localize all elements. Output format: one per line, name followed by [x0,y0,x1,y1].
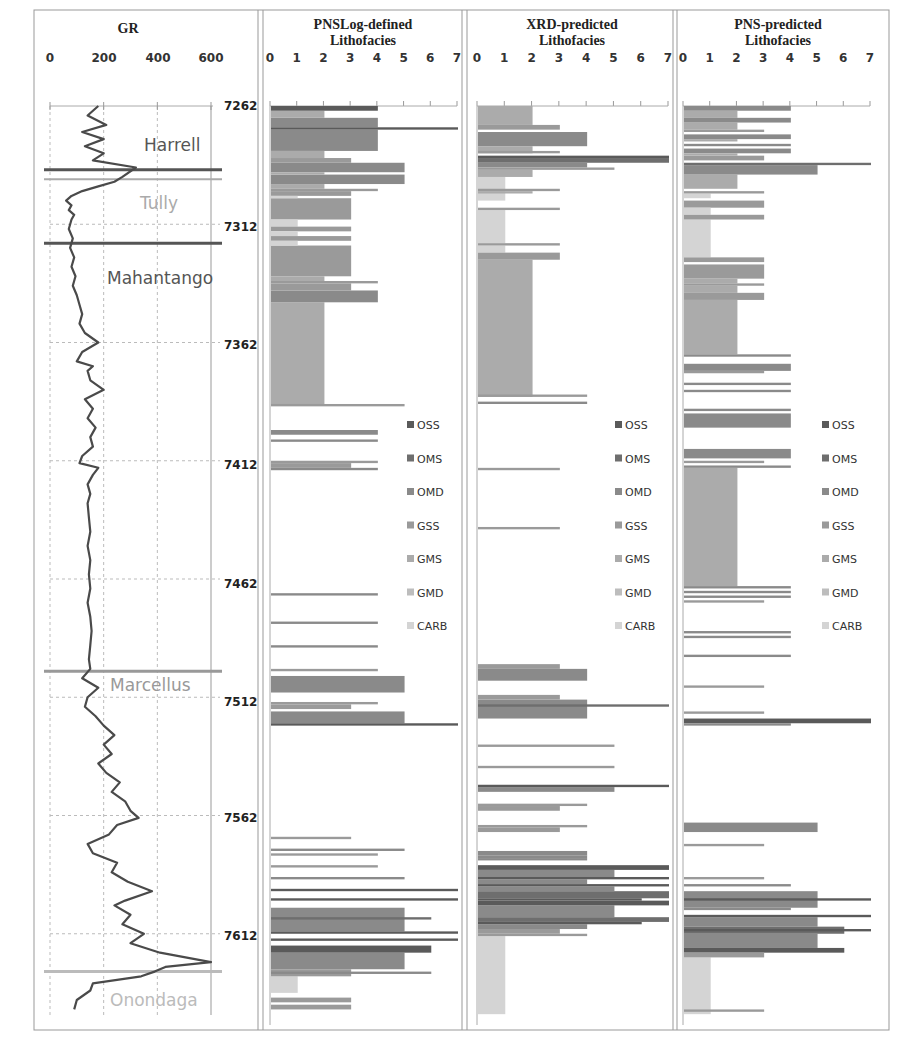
legend-label-gms: GMS [417,553,442,566]
bar-omd [684,383,791,385]
bar-oss [684,915,871,917]
bar-omd [271,953,405,970]
bar-gss [271,865,378,867]
pns-predicted-legend: OSSOMSOMDGSSGMSGMDCARB [822,419,862,633]
bar-omd [478,700,587,719]
bar-omd [684,891,818,903]
xrd-predicted-title-line2: Lithofacies [539,33,606,48]
bar-gss [684,844,764,846]
bar-gms [684,279,737,284]
bar-omd [684,144,791,146]
formation-label-harrell: Harrell [144,135,200,155]
bar-omd [478,924,587,929]
bar-omd [478,669,587,681]
bar-oss [271,898,458,900]
bar-gss [271,853,378,855]
x-tick-label: 1 [500,51,508,65]
bar-gms [684,468,737,586]
bar-omd [478,879,587,884]
bar-omd [684,364,791,371]
bar-gms [684,286,737,293]
bar-gms [271,111,324,118]
bar-gss [478,167,614,169]
bar-omd [271,645,378,647]
bar-gss [271,198,351,219]
bar-gss [478,208,560,210]
bar-oss [271,938,458,940]
legend-swatch-gmd [615,589,622,596]
legend-swatch-gms [615,555,622,562]
x-tick-label: 0 [473,51,481,65]
bar-gss [478,151,560,153]
legend-label-oms: OMS [625,453,650,466]
bar-omd [271,290,378,302]
x-tick-label: 4 [373,51,381,65]
bar-gss [271,191,351,196]
lithofacies-figure: GR 0 200 400 600 Harrell Tully Mahantang… [0,0,912,1055]
bar-gss [271,998,351,1003]
xrd-predicted-legend: OSSOMSOMDGSSGMSGMDCARB [615,419,655,633]
bar-omd [478,402,587,404]
bar-omd [684,917,818,926]
gr-grid [50,102,220,1015]
bar-gms [271,276,324,281]
bar-oms [684,163,871,165]
x-tick-label: 4 [582,51,590,65]
bar-gss [478,664,560,669]
bar-omd [684,934,818,948]
legend-label-oms: OMS [832,453,857,466]
xrd-predicted-title-line1: XRD-predicted [526,17,618,32]
x-tick-label: 4 [786,51,794,65]
bar-carb [271,196,298,198]
bar-omd [684,591,791,593]
x-tick-label: 1 [706,51,714,65]
bar-carb [684,194,711,199]
legend-swatch-oss [615,421,622,428]
bar-omd [271,118,378,127]
bar-gss [684,711,764,713]
x-tick-label: 6 [426,51,434,65]
bar-gss [684,877,764,879]
bar-omd [684,354,791,356]
bar-omd [684,149,791,154]
x-tick-label: 6 [839,51,847,65]
bar-gss [684,461,764,463]
bar-carb [478,210,505,243]
x-tick-label: 7 [866,51,874,65]
gr-tick: 200 [91,51,116,65]
bar-gss [684,215,764,220]
bar-gss [478,527,560,529]
bar-oss [684,898,871,900]
bar-gms [271,151,324,158]
bar-gss [684,600,764,602]
legend-label-gss: GSS [417,520,440,533]
bar-oss [478,898,642,900]
formation-boundaries [44,170,222,972]
x-tick-label: 3 [346,51,354,65]
bar-gss [271,246,351,277]
legend-label-gss: GSS [832,520,855,533]
legend-swatch-omd [822,488,829,495]
bar-gms [684,111,737,118]
bar-omd [684,823,818,832]
bar-oss [478,922,642,924]
bar-gss [271,236,351,241]
bar-gms [684,123,737,130]
bar-gss [271,158,351,163]
bar-gss [478,929,560,934]
legend-label-gms: GMS [625,553,650,566]
depth-label: 7362 [224,338,257,352]
bar-gss [684,953,764,958]
bar-oss [684,948,844,953]
x-tick-label: 2 [319,51,327,65]
bar-carb [684,957,711,1014]
legend-label-gss: GSS [625,520,648,533]
bar-omd [478,858,587,860]
bar-gss [271,283,351,290]
bar-gss [271,404,405,406]
gr-title: GR [118,21,140,36]
bar-omd [684,409,791,411]
bar-omd [684,631,791,633]
x-tick-label: 7 [453,51,461,65]
x-tick-label: 1 [293,51,301,65]
